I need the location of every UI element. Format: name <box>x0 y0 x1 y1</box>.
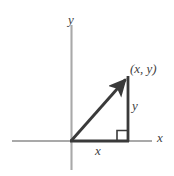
x-axis-label: x <box>157 131 163 144</box>
y-axis-label: y <box>68 13 74 26</box>
right-angle-marker-icon <box>117 131 128 142</box>
horizontal-leg-label: x <box>95 144 101 157</box>
vertical-leg-label: y <box>132 99 138 112</box>
figure-canvas <box>0 0 174 176</box>
coordinate-triangle-figure: (x, y) y x x y <box>0 0 174 176</box>
point-coordinates-label: (x, y) <box>130 62 157 75</box>
